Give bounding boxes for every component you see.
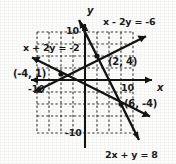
point-label-p3: (6, -4) [124, 99, 157, 109]
x-axis-tick-positive: 10 [121, 83, 134, 93]
equation-label-line-c: 2x + y = 8 [105, 150, 158, 160]
y-axis-label: y [87, 6, 93, 16]
math-graph-screenshot: x y 10 10 -10 -10 x - 2y = -6 x + 2y = -… [0, 0, 176, 164]
y-axis-tick-negative: -10 [65, 128, 82, 138]
y-axis-tick-positive: 10 [66, 26, 79, 36]
vertex-point-p1 [58, 71, 63, 76]
equation-label-line-b: x + 2y = -2 [23, 43, 79, 53]
vertex-point-p2 [94, 53, 99, 58]
x-axis-label: x [157, 83, 163, 93]
x-axis-tick-negative: -10 [28, 84, 45, 94]
equation-label-line-a: x - 2y = -6 [103, 17, 155, 27]
point-label-p2: (2, 4) [108, 57, 137, 67]
vertex-point-p3 [118, 101, 123, 106]
point-label-p1: (-4, 1) [13, 69, 46, 79]
